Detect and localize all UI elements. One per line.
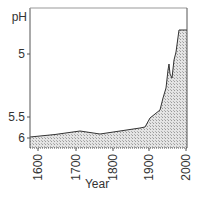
ph-chart: 5 5.5 6 pH 1600 1700 1800 1900 2000 Year: [0, 0, 199, 199]
x-axis-label: Year: [85, 177, 109, 191]
ph-area-fill: [30, 30, 187, 148]
y-axis-label: pH: [12, 10, 27, 24]
y-tick-label-5: 5: [18, 47, 25, 61]
x-tick-label-1900: 1900: [142, 154, 156, 181]
y-tick-label-6: 6: [18, 131, 25, 145]
x-tick-label-1700: 1700: [69, 154, 83, 181]
x-tick-label-1600: 1600: [31, 154, 45, 181]
y-tick-label-5.5: 5.5: [8, 110, 25, 124]
x-tick-label-2000: 2000: [179, 154, 193, 181]
